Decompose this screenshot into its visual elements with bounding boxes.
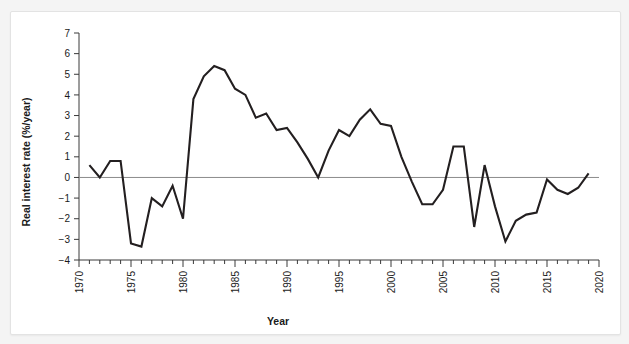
x-tick-label-1990: 1990 bbox=[282, 271, 293, 294]
x-tick-label-2020: 2020 bbox=[594, 271, 605, 294]
figure-card: Real interest rate (%/year) Year 7654321… bbox=[10, 11, 621, 335]
y-tick-label-5: 5 bbox=[64, 69, 70, 80]
x-axis-title: Year bbox=[267, 315, 289, 327]
x-tick-label-1970: 1970 bbox=[74, 271, 85, 294]
x-axis-ticks: 1970197519801985199019952000200520102015… bbox=[74, 260, 605, 293]
y-tick-label-1: 1 bbox=[64, 151, 70, 162]
y-tick-label--4: −4 bbox=[59, 255, 71, 266]
x-tick-label-2010: 2010 bbox=[490, 271, 501, 294]
x-tick-label-1985: 1985 bbox=[230, 271, 241, 294]
y-tick-label-7: 7 bbox=[64, 28, 70, 39]
chart-figure: Real interest rate (%/year) Year 7654321… bbox=[11, 12, 620, 334]
y-tick-label-2: 2 bbox=[64, 131, 70, 142]
x-tick-label-2000: 2000 bbox=[386, 271, 397, 294]
real-interest-rate-series bbox=[89, 66, 588, 247]
x-tick-label-1980: 1980 bbox=[178, 271, 189, 294]
y-axis-ticks: 76543210−1−2−3−4 bbox=[59, 28, 79, 266]
x-tick-label-1995: 1995 bbox=[334, 271, 345, 294]
y-tick-label--2: −2 bbox=[59, 213, 71, 224]
y-tick-label-4: 4 bbox=[64, 90, 70, 101]
x-tick-label-2015: 2015 bbox=[542, 271, 553, 294]
y-tick-label-3: 3 bbox=[64, 110, 70, 121]
y-axis-title: Real interest rate (%/year) bbox=[20, 98, 32, 227]
y-tick-label--1: −1 bbox=[59, 193, 71, 204]
screenshot-page: Real interest rate (%/year) Year 7654321… bbox=[0, 0, 629, 344]
y-tick-label-0: 0 bbox=[64, 172, 70, 183]
y-tick-label--3: −3 bbox=[59, 234, 71, 245]
real-interest-rate-line-chart: Real interest rate (%/year) Year 7654321… bbox=[11, 12, 620, 334]
y-tick-label-6: 6 bbox=[64, 48, 70, 59]
x-tick-label-1975: 1975 bbox=[126, 271, 137, 294]
x-tick-label-2005: 2005 bbox=[438, 271, 449, 294]
